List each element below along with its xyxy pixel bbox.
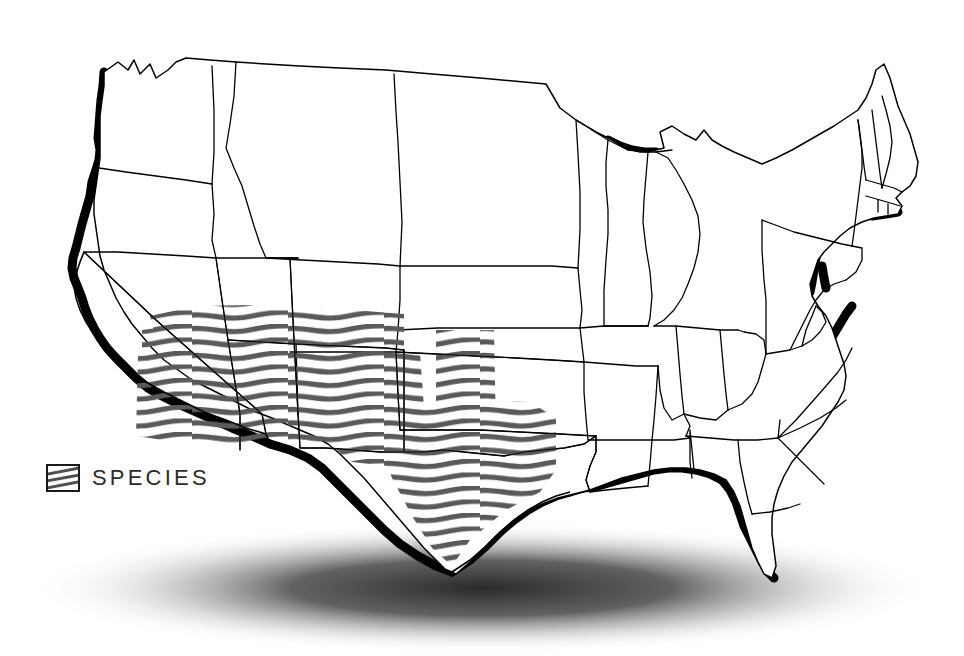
map-graphic bbox=[0, 0, 964, 656]
species-distribution-map: SPECIES bbox=[0, 0, 964, 656]
species-legend-swatch-icon bbox=[46, 464, 80, 492]
species-legend-label: SPECIES bbox=[92, 467, 210, 489]
map-legend: SPECIES bbox=[46, 464, 210, 492]
swatch-hatch-icon bbox=[48, 466, 78, 490]
